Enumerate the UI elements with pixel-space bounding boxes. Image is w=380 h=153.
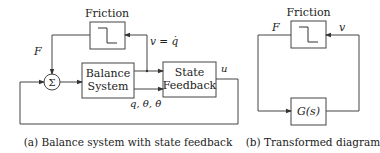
velocity-label-b: v bbox=[339, 21, 346, 34]
velocity-signal-line-b bbox=[326, 35, 359, 111]
force-signal-line bbox=[52, 35, 90, 74]
friction-label-b: Friction bbox=[286, 6, 330, 19]
velocity-feedback-line bbox=[125, 35, 147, 71]
force-signal-line-b bbox=[258, 35, 291, 111]
balance-system-label-2: System bbox=[88, 80, 129, 93]
velocity-label-a: v = q̇ bbox=[150, 35, 178, 47]
state-feedback-label-2: Feedback bbox=[163, 79, 217, 92]
transfer-function-label: G(s) bbox=[297, 105, 320, 118]
control-label: u bbox=[221, 63, 227, 74]
state-feedback-label-1: State bbox=[175, 66, 204, 79]
force-label-b: F bbox=[271, 21, 280, 34]
sum-symbol: Σ bbox=[48, 77, 55, 88]
diagram-canvas: Friction F v = q̇ Σ Balance System State… bbox=[0, 0, 380, 153]
balance-system-label-1: Balance bbox=[86, 67, 130, 80]
friction-nonlinearity-icon bbox=[98, 28, 117, 43]
states-label: q, θ, θ̇ bbox=[130, 98, 161, 109]
caption-b: (b) Transformed diagram bbox=[246, 136, 380, 148]
caption-a: (a) Balance system with state feedback bbox=[24, 136, 233, 148]
friction-label-a: Friction bbox=[85, 7, 129, 20]
force-label-a: F bbox=[33, 45, 42, 58]
friction-nonlinearity-icon-b bbox=[299, 27, 318, 42]
